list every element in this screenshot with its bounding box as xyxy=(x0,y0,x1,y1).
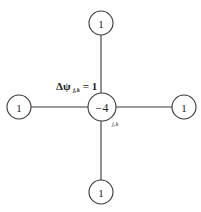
node-bottom: 1 xyxy=(89,180,113,204)
node-left-value: 1 xyxy=(16,102,22,114)
node-top: 1 xyxy=(89,11,113,35)
node-bottom-value: 1 xyxy=(98,187,104,199)
node-center-subscript: j,k xyxy=(111,120,118,127)
stencil-diagram: 1 1 1 1 −4 j,k Δψ j,k = 1 xyxy=(0,0,201,212)
node-top-value: 1 xyxy=(98,18,104,30)
node-left: 1 xyxy=(7,95,31,119)
node-right: 1 xyxy=(172,95,196,119)
label-subscript: j,k xyxy=(72,86,80,93)
label-prefix: Δψ xyxy=(56,80,71,92)
node-right-value: 1 xyxy=(181,102,187,114)
node-center-value: −4 xyxy=(96,101,109,115)
stencil-label: Δψ j,k = 1 xyxy=(56,80,97,94)
node-center: −4 j,k xyxy=(88,93,118,127)
label-suffix: = 1 xyxy=(83,80,98,92)
svg-text:Δψ j,k = 1: Δψ j,k = 1 xyxy=(56,80,97,94)
